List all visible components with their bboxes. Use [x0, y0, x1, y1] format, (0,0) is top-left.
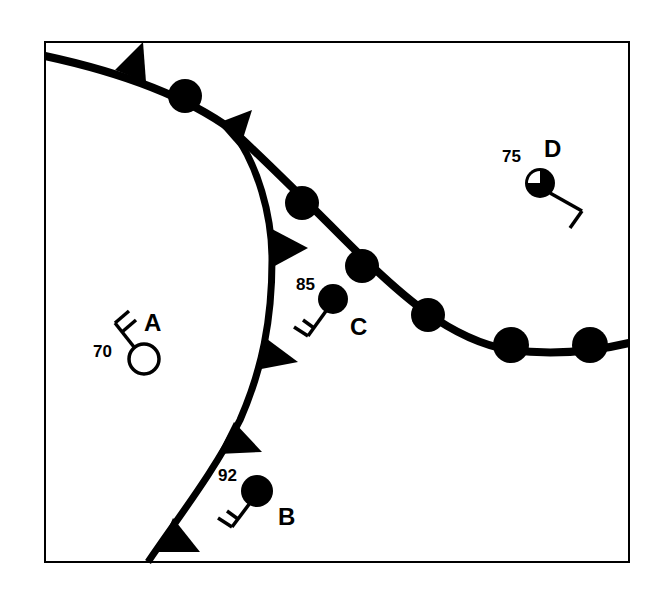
weather-map [0, 0, 668, 592]
front-semicircle-icon [411, 298, 445, 332]
front-semicircle-icon [285, 186, 319, 220]
wind-barb-icon [294, 327, 308, 336]
station-b-temperature: 92 [218, 467, 237, 484]
wind-staff-icon [115, 323, 134, 347]
station-b-label: B [278, 505, 295, 529]
wind-barb-icon [227, 511, 238, 519]
station-a-temperature: 70 [93, 343, 112, 360]
front-semicircle-icon [168, 79, 202, 113]
front-triangle-icon [270, 228, 308, 268]
wind-barb-icon [570, 211, 582, 228]
station-c-label: C [350, 315, 367, 339]
overcast-sky-icon [241, 475, 273, 507]
station-d-temperature: 75 [502, 148, 521, 165]
front-semicircle-icon [345, 249, 379, 283]
front-triangle-icon [256, 336, 298, 370]
wind-barb-icon [115, 311, 129, 323]
wind-barb-icon [303, 320, 314, 328]
station-d-label: D [544, 137, 561, 161]
front-semicircle-icon [572, 327, 608, 363]
station-a-label: A [144, 311, 161, 335]
wind-barb-icon [218, 518, 232, 527]
overcast-sky-icon [318, 284, 348, 314]
station-c-temperature: 85 [296, 276, 315, 293]
front-semicircle-icon [493, 327, 529, 363]
wind-barb-icon [122, 320, 136, 332]
wind-staff-icon [550, 193, 582, 211]
clear-sky-icon [129, 344, 159, 374]
station-d-symbol [525, 168, 582, 228]
